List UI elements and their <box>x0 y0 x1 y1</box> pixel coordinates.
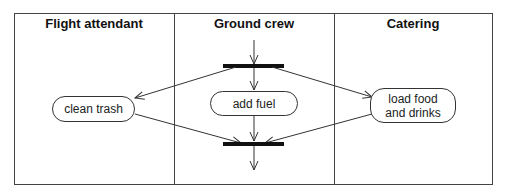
activity-add-fuel: add fuel <box>210 91 298 116</box>
lane-title-catering: Catering <box>334 16 492 31</box>
lane-title-flight-attendant: Flight attendant <box>14 16 174 31</box>
edge-load-food-join <box>265 114 372 143</box>
activity-label-line-2: and drinks <box>385 106 440 120</box>
lane-title-ground-crew: Ground crew <box>174 16 334 31</box>
activity-clean-trash: clean trash <box>52 96 135 122</box>
join-bar <box>223 142 284 146</box>
activity-label-line-1: load food <box>388 92 437 106</box>
activity-load-food-and-drinks: load food and drinks <box>370 88 456 123</box>
edge-clean-trash-join <box>135 114 241 143</box>
